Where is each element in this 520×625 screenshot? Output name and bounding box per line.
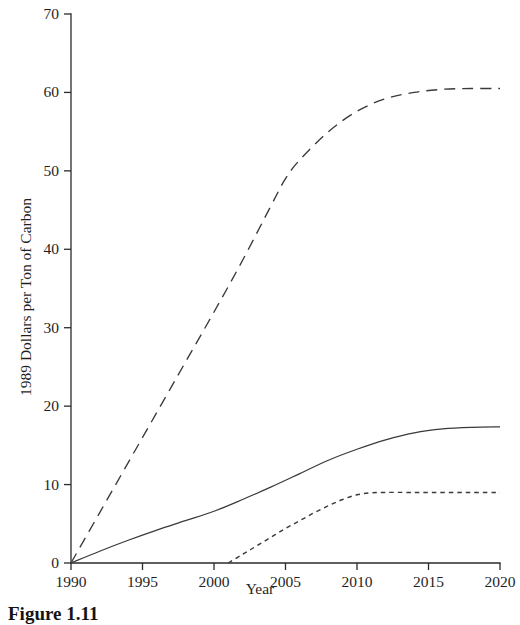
series-line-middle-solid [71,427,500,563]
figure-caption: Figure 1.11 [8,603,98,625]
y-axis-title: 1989 Dollars per Ton of Carbon [17,167,35,427]
axes-group [64,14,500,570]
y-axis-tick-label: 10 [14,477,59,493]
y-axis-tick-label: 60 [14,85,59,101]
y-axis-tick-label: 70 [14,6,59,22]
y-axis-tick-label: 0 [14,555,59,571]
series-line-lower-dotted [228,492,500,563]
x-axis-title: Year [0,580,520,598]
series-group [71,88,500,563]
